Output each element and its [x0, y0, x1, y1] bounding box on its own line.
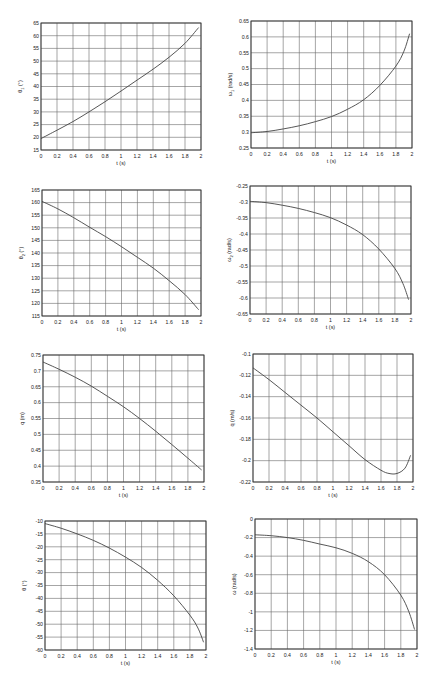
- x-tick-label: 0.2: [53, 153, 60, 159]
- x-tick-label: 0.4: [279, 317, 286, 323]
- x-tick-label: 0.4: [70, 319, 77, 325]
- x-tick-label: 0.2: [265, 485, 272, 491]
- x-tick-label: 0.8: [101, 153, 108, 159]
- y-axis-label: q̇ (m/s): [229, 409, 235, 426]
- y-tick-label: 0.5: [34, 431, 41, 437]
- x-tick-label: 1.2: [134, 319, 141, 325]
- x-tick-labels: 00.20.40.60.811.21.41.61.82: [40, 153, 203, 159]
- x-tick-label: 0: [41, 319, 44, 325]
- x-tick-label: 0: [250, 151, 253, 157]
- y-tick-label: -55: [36, 634, 44, 640]
- data-line: [255, 535, 415, 630]
- y-tick-label: -1: [248, 609, 253, 615]
- y-tick-label: 0.55: [239, 50, 249, 56]
- y-tick-label: 0.6: [242, 34, 249, 40]
- x-tick-label: 1: [124, 653, 127, 659]
- chart-q: 00.20.40.60.811.21.41.61.820.350.40.450.…: [19, 352, 206, 498]
- y-tick-label: 0.35: [239, 113, 249, 119]
- y-tick-label: 0.65: [239, 18, 249, 24]
- x-tick-label: 0.2: [57, 653, 64, 659]
- y-tick-label: -0.3: [239, 199, 248, 205]
- x-tick-label: 1.8: [186, 653, 193, 659]
- x-tick-label: 1.8: [181, 153, 188, 159]
- chart-qdot: 00.20.40.60.811.21.41.61.82-0.22-0.2-0.1…: [229, 351, 415, 498]
- y-tick-label: -0.45: [236, 247, 248, 253]
- x-tick-label: 0.8: [312, 151, 319, 157]
- y-tick-label: 55: [33, 45, 39, 51]
- y-axis-label: q (m): [19, 412, 25, 425]
- y-tick-label: -0.25: [236, 183, 248, 189]
- x-tick-label: 2: [200, 153, 203, 159]
- x-tick-label: 0.6: [295, 317, 302, 323]
- x-tick-labels: 00.20.40.60.811.21.41.61.82: [44, 653, 208, 659]
- x-tick-label: 0.2: [55, 485, 62, 491]
- x-axis-label: t (s): [328, 492, 337, 498]
- chart-omega1: 00.20.40.60.811.21.41.61.820.250.30.350.…: [227, 18, 414, 164]
- x-tick-label: 1.4: [365, 652, 372, 658]
- x-tick-label: 1.8: [391, 317, 398, 323]
- y-axis-label: θ2 (°): [18, 247, 26, 260]
- grid-lines: [250, 186, 411, 314]
- y-tick-label: -0.4: [244, 553, 253, 559]
- y-tick-label: -35: [36, 582, 44, 588]
- x-tick-label: 1.2: [345, 485, 352, 491]
- grid-lines: [253, 354, 413, 482]
- x-axis-label: t (s): [327, 158, 336, 164]
- y-tick-labels: 1520253035404550556065: [33, 20, 39, 153]
- y-axis-label: θ1 (°): [17, 80, 25, 93]
- y-tick-label: -0.16: [239, 415, 251, 421]
- x-tick-label: 0.8: [313, 485, 320, 491]
- x-tick-label: 0.2: [262, 317, 269, 323]
- y-tick-label: 0.45: [31, 447, 41, 453]
- x-tick-label: 0: [44, 653, 47, 659]
- x-tick-label: 1: [120, 319, 123, 325]
- y-tick-labels: -0.22-0.2-0.18-0.16-0.14-0.12-0.1: [239, 351, 251, 485]
- y-tick-labels: -60-55-50-45-40-35-30-25-20-15-10: [36, 518, 44, 653]
- x-tick-label: 0.6: [296, 151, 303, 157]
- x-tick-label: 1.6: [168, 485, 175, 491]
- y-tick-label: -30: [36, 569, 44, 575]
- x-tick-label: 1.4: [154, 653, 161, 659]
- x-axis-label: t (s): [117, 326, 126, 332]
- x-tick-label: 0.8: [104, 485, 111, 491]
- x-tick-label: 1.6: [381, 652, 388, 658]
- x-tick-label: 1.6: [165, 153, 172, 159]
- x-tick-label: 1: [332, 485, 335, 491]
- x-tick-label: 0: [40, 153, 43, 159]
- x-tick-label: 2: [416, 652, 419, 658]
- y-tick-label: -25: [36, 557, 44, 563]
- y-tick-label: 30: [33, 109, 39, 115]
- x-tick-label: 0.8: [311, 317, 318, 323]
- x-tick-label: 1.2: [344, 151, 351, 157]
- x-tick-label: 1.6: [376, 151, 383, 157]
- y-tick-label: 0.4: [34, 463, 41, 469]
- x-tick-label: 0.4: [281, 485, 288, 491]
- x-tick-label: 0.2: [54, 319, 61, 325]
- x-tick-label: 1.2: [136, 485, 143, 491]
- x-tick-label: 2: [412, 485, 415, 491]
- x-tick-label: 1: [120, 153, 123, 159]
- x-tick-label: 1.4: [361, 485, 368, 491]
- y-tick-label: 155: [31, 212, 40, 218]
- y-tick-label: -20: [36, 544, 44, 550]
- x-tick-label: 1.2: [343, 317, 350, 323]
- y-tick-label: -40: [36, 595, 44, 601]
- x-tick-label: 0.2: [263, 151, 270, 157]
- y-tick-label: 35: [33, 96, 39, 102]
- x-tick-label: 0.4: [69, 153, 76, 159]
- grid-lines: [43, 355, 204, 482]
- x-tick-label: 1.8: [184, 485, 191, 491]
- y-tick-label: 160: [31, 199, 40, 205]
- y-tick-label: 135: [31, 262, 40, 268]
- x-tick-label: 1.2: [133, 153, 140, 159]
- x-tick-label: 1.2: [349, 652, 356, 658]
- y-tick-label: -0.22: [239, 479, 251, 485]
- x-tick-label: 1: [122, 485, 125, 491]
- x-tick-labels: 00.20.40.60.811.21.41.61.82: [249, 317, 413, 323]
- y-tick-label: 25: [33, 121, 39, 127]
- y-tick-label: 145: [31, 237, 40, 243]
- y-axis-label: ω2 (rad/s): [226, 238, 234, 262]
- y-tick-labels: 115120125130135140145150155160165: [31, 187, 40, 319]
- x-tick-label: 0.6: [88, 485, 95, 491]
- y-tick-label: 130: [31, 275, 40, 281]
